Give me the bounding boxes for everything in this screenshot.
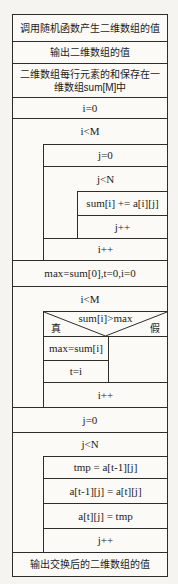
- step-accumulate-sum: sum[i] += a[i][j]: [78, 191, 167, 215]
- decision-sum-gt-max: sum[i]>max 真 假: [44, 311, 167, 336]
- step-update-t: t=i: [44, 360, 108, 382]
- step-row-sum-note: 二维数组每行元素的和保存在一维数组sum[M]中: [13, 63, 167, 97]
- step-init-max: max=sum[0],t=0,i=0: [13, 260, 167, 286]
- step-output-swapped: 输出交换后的二维数组的值: [13, 552, 167, 576]
- step-swap-back: a[t][j] = tmp: [44, 503, 167, 528]
- step-output-array: 输出二维数组的值: [13, 41, 167, 63]
- loop-find-max-body: sum[i]>max 真 假 max=sum[i] t=i i++: [43, 311, 167, 407]
- loop-sum-rows-condition: i<M: [13, 119, 167, 144]
- step-increment-j: j++: [78, 215, 167, 238]
- loop-swap-rows-body: tmp = a[t-1][j] a[t-1][j] = a[t][j] a[t]…: [43, 456, 167, 552]
- loop-swap-rows-condition: j<N: [13, 433, 167, 456]
- loop-find-max-condition: i<M: [13, 287, 167, 311]
- decision-false-label: 假: [150, 320, 160, 335]
- step-swap-tmp: tmp = a[t-1][j]: [44, 456, 167, 478]
- ns-structure-chart: 调用随机函数产生二维数组的值 输出二维数组的值 二维数组每行元素的和保存在一维数…: [12, 14, 168, 577]
- step-increment-j-2: j++: [44, 528, 167, 552]
- loop-sum-cols-condition: j<N: [44, 167, 167, 191]
- step-init-j-2: j=0: [13, 407, 167, 432]
- loop-sum-cols: j<N sum[i] += a[i][j] j++: [44, 166, 167, 238]
- loop-swap-rows: j<N tmp = a[t-1][j] a[t-1][j] = a[t][j] …: [13, 432, 167, 552]
- decision-true-label: 真: [51, 320, 61, 335]
- step-swap-assign: a[t-1][j] = a[t][j]: [44, 478, 167, 503]
- branch-false-empty: [108, 337, 167, 382]
- decision-branches: max=sum[i] t=i: [44, 336, 167, 382]
- loop-find-max: i<M sum[i]>max 真 假 max=sum[i] t=i i++: [13, 286, 167, 407]
- step-increment-i-2: i++: [44, 382, 167, 407]
- loop-sum-rows-body: j=0 j<N sum[i] += a[i][j] j++ i++: [43, 144, 167, 260]
- step-increment-i: i++: [44, 238, 167, 260]
- step-update-max: max=sum[i]: [44, 337, 108, 360]
- step-generate-random: 调用随机函数产生二维数组的值: [13, 15, 167, 41]
- decision-condition: sum[i]>max: [44, 312, 167, 325]
- step-init-i: i=0: [13, 97, 167, 118]
- loop-sum-rows: i<M j=0 j<N sum[i] += a[i][j] j++ i++: [13, 118, 167, 260]
- step-init-j: j=0: [44, 144, 167, 166]
- branch-true: max=sum[i] t=i: [44, 337, 108, 382]
- loop-sum-cols-body: sum[i] += a[i][j] j++: [77, 191, 167, 238]
